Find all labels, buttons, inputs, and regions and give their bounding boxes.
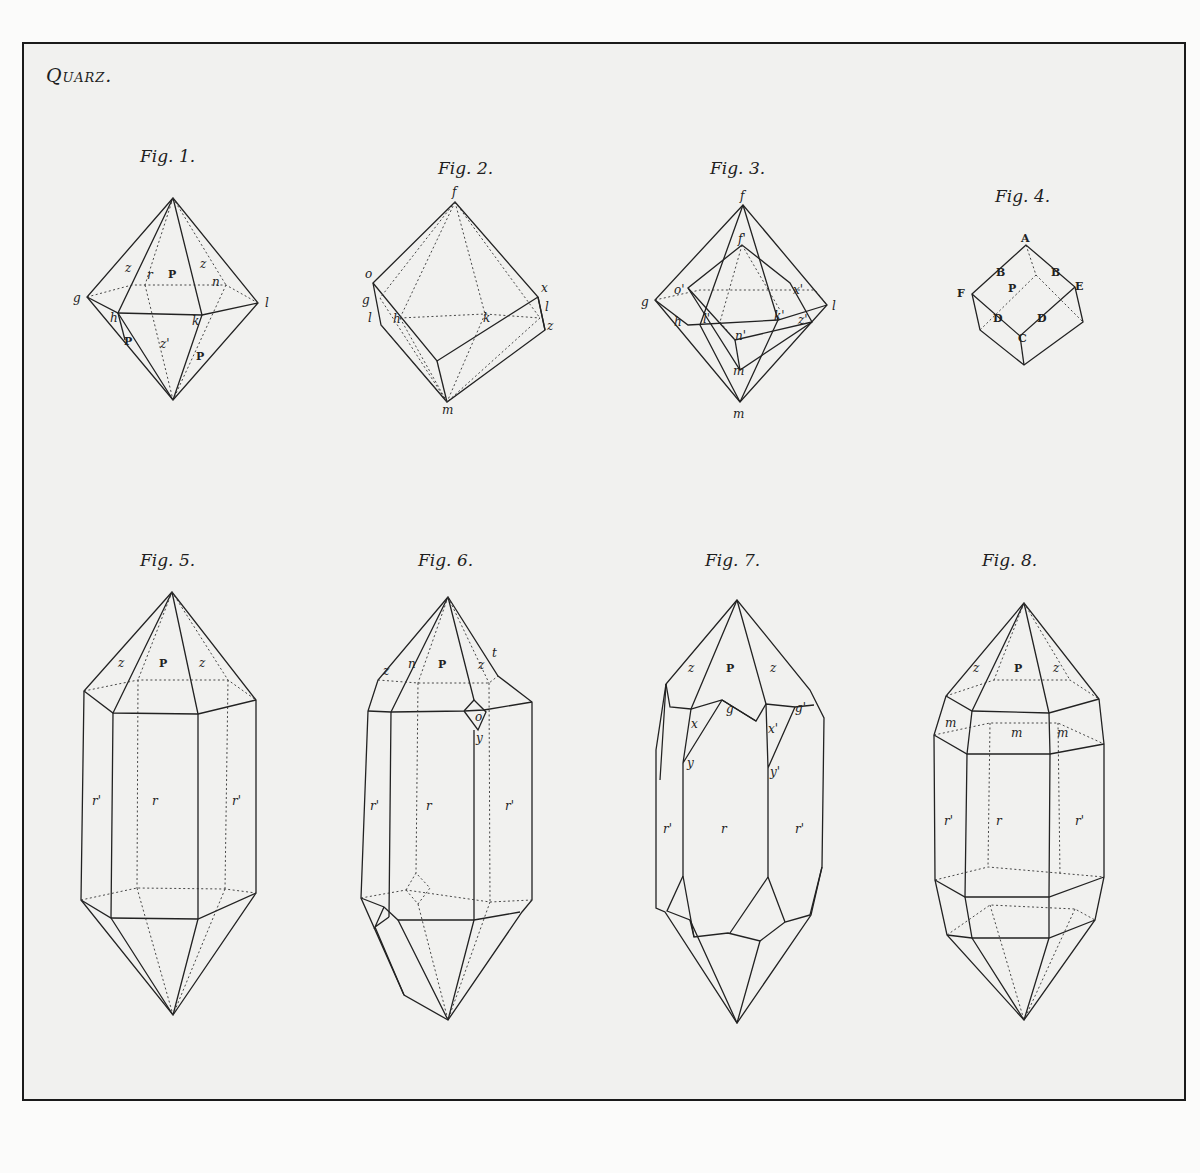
fig3-label-k-prime: k' xyxy=(774,309,785,323)
fig1-label-n: n xyxy=(212,275,220,289)
fig3-label-g: g xyxy=(641,295,649,309)
fig4-label-E: E xyxy=(1075,280,1083,293)
fig1-label-l: l xyxy=(265,296,269,310)
fig3-label-h: h xyxy=(674,315,682,329)
fig7-label-P: P xyxy=(726,662,734,675)
fig8-label-m3: m xyxy=(1057,726,1068,740)
fig7-label-g: g xyxy=(726,702,734,716)
fig7-label-r-prime2: r' xyxy=(795,822,804,836)
fig1-label-h: h xyxy=(110,311,118,325)
fig2-label-h: h xyxy=(393,312,401,326)
fig4-label-C: C xyxy=(1018,332,1027,345)
fig2-label-o: o xyxy=(365,267,372,281)
fig8-label-z: z xyxy=(972,661,980,675)
fig4-label-P: P xyxy=(1008,282,1016,295)
fig1-label-r: r xyxy=(147,268,154,282)
fig7-label-r: r xyxy=(721,822,728,836)
fig8-label-m: m xyxy=(945,716,956,730)
fig2-label-l2: l xyxy=(545,300,549,314)
fig4-label-D2: D xyxy=(1037,312,1047,325)
fig1-bipyramid-drawing: z r P z n g l h k P z' P xyxy=(73,198,269,400)
fig6-label-y: y xyxy=(475,731,483,745)
fig5-label-z2: z xyxy=(198,656,206,670)
fig6-label-o: o xyxy=(475,710,482,724)
fig2-label-g: g xyxy=(362,293,370,307)
fig8-label-z2: z xyxy=(1052,661,1060,675)
fig6-label-z2: z xyxy=(477,658,485,672)
fig3-label-x-prime: x' xyxy=(793,283,803,297)
fig4-rhombohedron-drawing: A B B F P E D D C xyxy=(957,232,1083,365)
fig7-label-r-prime: r' xyxy=(663,822,672,836)
fig3-label-m-inner: m xyxy=(733,364,744,378)
fig3-label-f: f xyxy=(739,189,747,203)
fig7-label-g-prime: g' xyxy=(795,701,806,715)
fig8-prism-drawing: z P z m m m r' r r' xyxy=(934,603,1104,1020)
fig7-label-x-prime: x' xyxy=(768,722,778,736)
fig5-label-r-prime: r' xyxy=(92,794,101,808)
fig8-label-r-prime: r' xyxy=(944,814,953,828)
fig5-prism-drawing: z P z r' r r' xyxy=(81,592,256,1015)
fig4-label-B2: B xyxy=(1051,266,1060,279)
fig7-label-y-prime: y' xyxy=(769,765,780,779)
crystal-drawings: z r P z n g l h k P z' P o f x g xyxy=(0,0,1200,1173)
fig4-label-F: F xyxy=(957,287,965,300)
fig1-label-z2: z xyxy=(199,257,207,271)
fig3-label-f-prime: f' xyxy=(737,232,746,246)
fig1-label-P2: P xyxy=(124,335,132,348)
fig3-combined-drawing: f f' o' x' g l h l' k' z' n' m m xyxy=(641,189,836,421)
fig6-label-t: t xyxy=(492,646,497,660)
fig7-label-x: x xyxy=(691,717,698,731)
fig3-label-l: l xyxy=(832,299,836,313)
fig5-label-r-prime2: r' xyxy=(232,794,241,808)
fig4-label-D: D xyxy=(993,312,1003,325)
fig5-label-z: z xyxy=(117,656,125,670)
fig2-label-x: x xyxy=(541,281,548,295)
fig3-label-l-prime: l' xyxy=(703,312,710,326)
fig4-label-B: B xyxy=(996,266,1005,279)
fig3-label-z-prime: z' xyxy=(797,313,808,327)
fig6-label-z: z xyxy=(382,664,390,678)
fig5-label-r: r xyxy=(152,794,159,808)
fig8-label-r: r xyxy=(996,814,1003,828)
fig1-label-P3: P xyxy=(196,350,204,363)
fig2-label-k: k xyxy=(483,311,490,325)
fig8-label-r-prime2: r' xyxy=(1075,814,1084,828)
fig6-label-n: n xyxy=(408,657,416,671)
fig5-label-P: P xyxy=(159,657,167,670)
fig2-rhombohedron-drawing: o f x g l h k l z m xyxy=(362,185,554,417)
fig1-label-P: P xyxy=(168,268,176,281)
fig3-label-m: m xyxy=(733,407,744,421)
fig1-label-z: z xyxy=(124,261,132,275)
fig6-label-P: P xyxy=(438,658,446,671)
fig2-label-f: f xyxy=(451,185,459,199)
fig1-label-z-prime: z' xyxy=(159,337,170,351)
fig2-label-l: l xyxy=(368,311,372,325)
fig3-label-o-prime: o' xyxy=(674,283,685,297)
fig2-label-m: m xyxy=(442,403,453,417)
fig2-label-z: z xyxy=(546,319,554,333)
fig6-prism-drawing: z n P z t o y r' r r' xyxy=(361,597,532,1020)
fig3-label-n-prime: n' xyxy=(735,329,746,343)
fig7-label-z: z xyxy=(687,661,695,675)
fig7-prism-drawing: z P z g g' x x' y y' r' r r' xyxy=(656,600,824,1023)
fig6-label-r-prime2: r' xyxy=(505,799,514,813)
fig8-label-m2: m xyxy=(1011,726,1022,740)
fig7-label-y: y xyxy=(686,756,694,770)
fig6-label-r: r xyxy=(426,799,433,813)
fig6-label-r-prime: r' xyxy=(370,799,379,813)
fig1-label-k: k xyxy=(192,314,199,328)
fig4-label-A: A xyxy=(1020,232,1030,245)
plate-page: Quarz. Fig. 1. Fig. 2. Fig. 3. Fig. 4. F… xyxy=(0,0,1200,1173)
fig8-label-P: P xyxy=(1014,662,1022,675)
fig7-label-z2: z xyxy=(769,661,777,675)
fig1-label-g: g xyxy=(73,291,81,305)
